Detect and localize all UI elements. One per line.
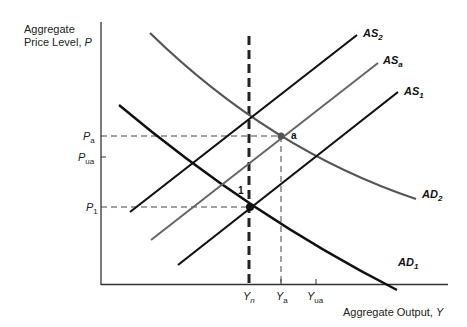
asa-label: ASa	[382, 54, 403, 69]
point-a-marker	[278, 133, 285, 140]
y-tick-label-pa: Pa	[83, 130, 95, 145]
point-a-label: a	[291, 130, 297, 141]
y-tick-label-pua: Pua	[78, 151, 95, 166]
point-1-marker	[246, 203, 254, 211]
as2-label: AS2	[362, 27, 383, 42]
ad1-label: AD1	[397, 256, 419, 271]
y-axis-title-line2: Price Level, P	[24, 36, 93, 48]
y-tick-label-p1: P1	[86, 201, 98, 216]
x-tick-label-ya: Ya	[276, 290, 288, 305]
x-tick-label-yua: Yua	[307, 290, 324, 305]
as1-label: AS1	[403, 85, 424, 100]
y-axis-title: Aggregate	[24, 23, 75, 35]
x-axis-title: Aggregate Output, Y	[343, 306, 444, 318]
as-ad-diagram: Aggregate Price Level, P Aggregate Outpu…	[0, 0, 467, 327]
ad1-curve	[119, 105, 397, 290]
ad2-label: AD2	[421, 188, 443, 203]
ad2-curve	[150, 33, 416, 199]
x-tick-label-yn: Yn	[243, 290, 255, 305]
point-1-label: 1	[238, 185, 244, 196]
